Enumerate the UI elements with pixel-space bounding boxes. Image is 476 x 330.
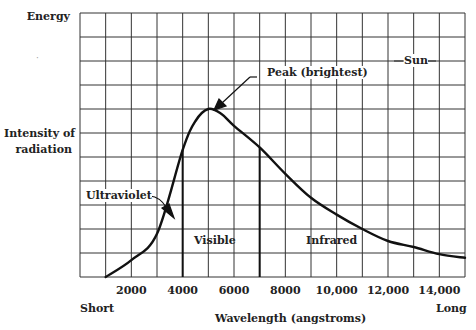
- ultraviolet-label: Ultraviolet: [86, 189, 152, 202]
- x-tick-label: 2000: [116, 284, 147, 297]
- region-boundaries: [183, 147, 260, 277]
- x-tick-label: 10,000: [316, 284, 358, 297]
- x-tick-label: 8000: [270, 284, 301, 297]
- x-axis-long-label: Long: [436, 302, 467, 315]
- x-axis-short-label: Short: [80, 302, 114, 315]
- y-axis-label-line1: Intensity of: [4, 127, 72, 140]
- y-axis-top-label: Energy: [8, 10, 70, 23]
- x-tick-label: 14,000: [418, 284, 460, 297]
- peak-arrow-icon: [214, 77, 257, 110]
- x-axis-title: Wavelength (angstroms): [215, 312, 366, 325]
- x-tick-label: 4000: [167, 284, 198, 297]
- y-axis-label-line2: radiation: [4, 143, 72, 156]
- visible-label: Visible: [194, 234, 236, 247]
- infrared-label: Infrared: [306, 234, 357, 247]
- chart-plot-area: [0, 0, 476, 330]
- stray-dot: ·: [36, 52, 39, 65]
- x-tick-label: 12,000: [367, 284, 409, 297]
- sun-label: Sun: [404, 54, 428, 67]
- grid: [80, 13, 465, 277]
- x-tick-label: 6000: [219, 284, 250, 297]
- peak-label: Peak (brightest): [266, 66, 369, 79]
